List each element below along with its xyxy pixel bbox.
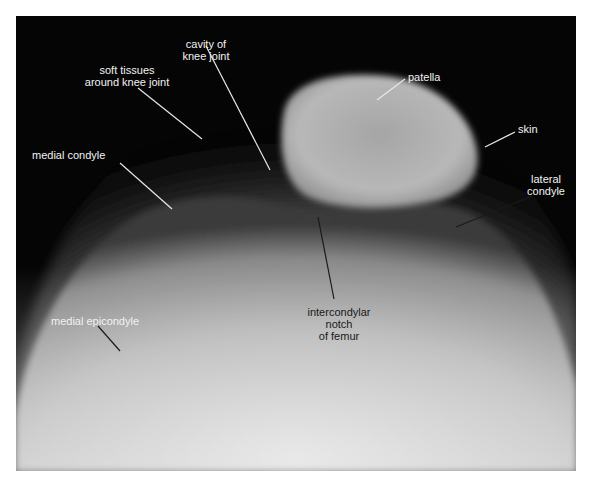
label-notch-line2: notch <box>299 318 379 330</box>
label-medial-condyle: medial condyle <box>32 149 105 161</box>
label-soft-line1: soft tissues <box>72 64 182 76</box>
label-skin: skin <box>518 123 538 135</box>
label-cavity-of-knee-joint: cavity of knee joint <box>166 38 246 62</box>
label-patella: patella <box>408 71 440 83</box>
label-soft-line2: around knee joint <box>72 76 182 88</box>
label-medial-epicondyle: medial epicondyle <box>51 315 139 327</box>
label-lateral-line1: lateral <box>516 173 576 185</box>
label-lateral-line2: condyle <box>516 185 576 197</box>
label-cavity-line1: cavity of <box>166 38 246 50</box>
label-notch-line1: intercondylar <box>299 306 379 318</box>
label-lateral-condyle: lateral condyle <box>516 173 576 197</box>
label-cavity-line2: knee joint <box>166 50 246 62</box>
label-intercondylar-notch: intercondylar notch of femur <box>299 306 379 342</box>
label-notch-line3: of femur <box>299 330 379 342</box>
label-soft-tissues: soft tissues around knee joint <box>72 64 182 88</box>
knee-xray-image: cavity of knee joint soft tissues around… <box>16 16 576 471</box>
